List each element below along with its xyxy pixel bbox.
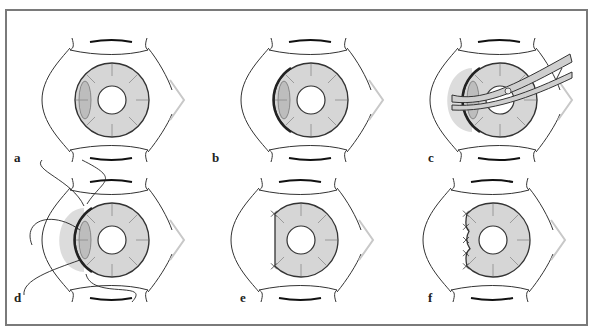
canthus [359, 220, 373, 260]
panel-label-d: d [14, 290, 22, 305]
lower-lid-crease [289, 158, 331, 160]
lower-lid-crease [90, 158, 132, 160]
panel-label-b: b [212, 150, 219, 165]
eye-outline-right-bottom [536, 114, 560, 152]
upper-lid-crease [279, 180, 321, 182]
eye-outline-left [423, 188, 451, 292]
panel-label-e: e [240, 290, 246, 305]
lower-lid-crease [471, 298, 513, 300]
panel-f [423, 178, 565, 302]
canthus [558, 80, 572, 120]
eye-outline-left [231, 188, 259, 292]
panel-b [241, 38, 383, 162]
pupil [297, 86, 325, 114]
scissors-pivot [505, 88, 511, 94]
panel-label-f: f [428, 290, 433, 305]
eye-outline-right-top [337, 188, 361, 230]
eye-outline-right-top [529, 188, 553, 230]
panel-d [24, 160, 184, 302]
canthus [170, 80, 184, 120]
eye-outline-left [241, 48, 269, 152]
upper-lid-crease [478, 40, 520, 42]
canthus [170, 220, 184, 260]
lower-lid-crease [478, 158, 520, 160]
eye-outline-right-bottom [347, 114, 371, 152]
eye-outline-right-bottom [148, 114, 172, 152]
lower-lid-crease [279, 298, 321, 300]
lower-lid-crease [90, 298, 132, 300]
suture-thread [40, 160, 84, 206]
eye-outline-right-bottom [529, 254, 553, 292]
eye-outline-left [42, 48, 70, 152]
panel-c [430, 38, 572, 162]
panel-label-a: a [14, 150, 21, 165]
panel-label-c: c [428, 150, 434, 165]
eye-outline-right-bottom [337, 254, 361, 292]
upper-lid-crease [90, 40, 132, 42]
pupil [479, 226, 507, 254]
upper-lid-crease [289, 40, 331, 42]
canthus [551, 220, 565, 260]
eye-outline-right-top [148, 48, 172, 90]
upper-lid-crease [90, 180, 132, 182]
panel-a [42, 38, 184, 162]
pupil [98, 226, 126, 254]
eye-outline-right-top [148, 188, 172, 230]
surgical-figure: a b c d e f [0, 0, 594, 332]
eye-outline-right-bottom [148, 254, 172, 292]
pupil [98, 86, 126, 114]
pupil [287, 226, 315, 254]
eye-outline-right-top [347, 48, 371, 90]
canthus [369, 80, 383, 120]
panel-e [231, 178, 373, 302]
upper-lid-crease [471, 180, 513, 182]
